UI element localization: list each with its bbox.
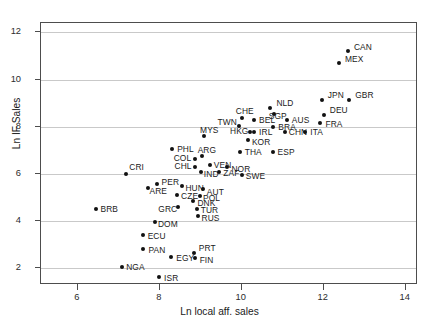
data-point [252, 130, 256, 134]
data-point [120, 265, 124, 269]
data-point-label: ECU [148, 232, 166, 241]
data-point-label: ARE [150, 187, 168, 196]
data-point-label: CHL [174, 162, 191, 171]
data-point [199, 170, 203, 174]
data-point [208, 163, 212, 167]
data-point-label: MYS [200, 126, 218, 135]
gridline [41, 80, 416, 81]
data-point-label: SWE [246, 172, 265, 181]
data-point-label: NGA [126, 263, 144, 272]
data-point [169, 255, 173, 259]
data-point [193, 157, 197, 161]
data-point [217, 170, 221, 174]
data-point-label: ESP [278, 148, 295, 157]
data-point-label: ARG [198, 146, 216, 155]
gridline [41, 32, 416, 33]
y-tick-label: 8 [0, 121, 21, 131]
gridline [41, 268, 416, 269]
x-tick-mark [241, 284, 242, 290]
data-point-label: IRL [259, 128, 272, 137]
data-point [320, 98, 324, 102]
data-point-label: FIN [200, 256, 214, 265]
plot-area: CANMEXJPNGBRNLDDEUSGPCHEBELAUSFRATWNBRAM… [40, 22, 417, 284]
data-point-label: ISR [164, 274, 178, 283]
data-point [246, 138, 250, 142]
data-point [141, 247, 145, 251]
data-point-label: THA [245, 148, 262, 157]
data-point [346, 49, 350, 53]
data-point-label: CZE [181, 192, 198, 201]
data-point-label: HKG [230, 127, 248, 136]
data-point [318, 121, 322, 125]
x-tick-label: 8 [147, 292, 171, 302]
y-tick-label: 6 [0, 168, 21, 178]
x-axis-label: Ln local aff. sales [0, 306, 439, 317]
data-point-label: BEL [259, 116, 275, 125]
x-tick-label: 12 [311, 292, 335, 302]
data-point-label: KOR [252, 138, 270, 147]
y-tick-label: 4 [0, 215, 21, 225]
data-point-label: PAN [148, 246, 165, 255]
data-point-label: EGY [176, 254, 194, 263]
data-point-label: CHE [236, 107, 254, 116]
data-point [303, 130, 307, 134]
data-point [202, 134, 206, 138]
x-tick-label: 6 [65, 292, 89, 302]
data-point-label: GBR [355, 91, 373, 100]
data-point [191, 199, 195, 203]
x-tick-label: 10 [229, 292, 253, 302]
data-point-label: GRC [158, 205, 177, 214]
data-point-label: ITA [310, 128, 323, 137]
data-point [180, 184, 184, 188]
x-tick-label: 14 [393, 292, 417, 302]
data-point [193, 256, 197, 260]
data-point [240, 173, 244, 177]
data-point-label: BRB [101, 205, 119, 214]
data-point-label: PRT [199, 244, 216, 253]
data-point [238, 150, 242, 154]
data-point [347, 98, 351, 102]
y-tick-label: 10 [0, 74, 21, 84]
data-point [175, 193, 179, 197]
data-point [157, 275, 161, 279]
data-point-label: ZAF [223, 169, 239, 178]
x-tick-mark [77, 284, 78, 290]
gridline [41, 221, 416, 222]
data-point [337, 61, 341, 65]
data-point-label: FRA [325, 120, 342, 129]
data-point-label: RUS [202, 214, 220, 223]
data-point [193, 165, 197, 169]
x-tick-mark [323, 284, 324, 290]
data-point [153, 220, 157, 224]
data-point [200, 154, 204, 158]
data-point-label: DEU [330, 106, 348, 115]
data-point [170, 147, 174, 151]
data-point [240, 116, 244, 120]
data-point [94, 207, 98, 211]
data-point [141, 233, 145, 237]
data-point-label: JPN [328, 91, 344, 100]
scatter-plot-figure: Ln IF Sales 24681012 68101214 CANMEXJPNG… [0, 0, 439, 327]
gridline [41, 127, 416, 128]
data-point [196, 214, 200, 218]
data-point [155, 182, 159, 186]
data-point-label: NLD [276, 99, 293, 108]
x-tick-mark [159, 284, 160, 290]
data-point [192, 251, 196, 255]
data-point-label: CRI [129, 163, 144, 172]
data-point [124, 172, 128, 176]
data-point [195, 207, 199, 211]
x-tick-mark [405, 284, 406, 290]
data-point-label: MEX [345, 55, 363, 64]
data-point [285, 118, 289, 122]
data-point [268, 106, 272, 110]
data-point [283, 130, 287, 134]
data-point-label: CAN [354, 43, 372, 52]
data-point [271, 150, 275, 154]
data-point [322, 113, 326, 117]
y-tick-label: 12 [0, 26, 21, 36]
y-tick-label: 2 [0, 262, 21, 272]
data-point [252, 118, 256, 122]
data-point [201, 187, 205, 191]
data-point-label: DOM [158, 220, 178, 229]
